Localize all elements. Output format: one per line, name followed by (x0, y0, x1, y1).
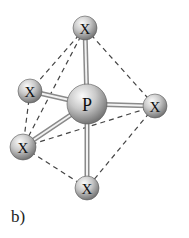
atom-x-lower-left: X (10, 134, 36, 160)
atom-p-central: P (67, 84, 107, 124)
atom-x-top: X (73, 16, 97, 40)
figure-label: b) (11, 207, 25, 227)
atom-x-right: X (143, 94, 167, 118)
atom-symbol: P (82, 95, 92, 115)
atom-symbol: X (82, 181, 93, 197)
atom-x-upper-left: X (18, 79, 42, 103)
atom-symbol: X (18, 140, 29, 156)
atom-symbol: X (80, 21, 91, 37)
dashed-edge (30, 28, 85, 91)
atom-symbol: X (150, 99, 161, 115)
atom-symbol: X (25, 84, 36, 100)
molecule-diagram: XXPXXX (0, 0, 189, 238)
atom-x-bottom: X (75, 176, 99, 200)
